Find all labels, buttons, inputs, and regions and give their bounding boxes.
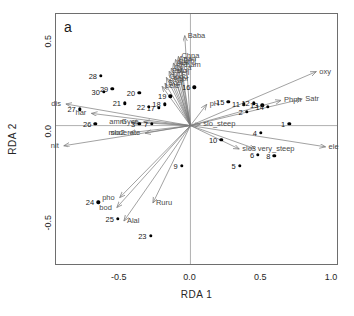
site-label: 1 bbox=[281, 119, 285, 128]
y-tick-label: -0.5 bbox=[43, 215, 53, 231]
biplot-arrow bbox=[117, 126, 191, 208]
site-label: 16 bbox=[182, 83, 190, 92]
site-label: 11 bbox=[232, 100, 240, 109]
site-label: 26 bbox=[83, 119, 91, 128]
panel-label: a bbox=[64, 19, 72, 35]
x-axis-title: RDA 1 bbox=[181, 289, 212, 300]
site-label: 28 bbox=[89, 71, 97, 80]
site-label: 25 bbox=[106, 215, 114, 224]
site-label: 20 bbox=[127, 89, 135, 98]
site-label: 19 bbox=[158, 92, 166, 101]
y-axis-title: RDA 2 bbox=[7, 123, 18, 154]
site-label: 6 bbox=[250, 150, 254, 159]
site-label: 5 bbox=[231, 161, 235, 170]
arrow-label: ele bbox=[329, 141, 339, 150]
site-label: 21 bbox=[113, 99, 121, 108]
site-label: 3 bbox=[131, 119, 135, 128]
y-tick-label: 0.0 bbox=[43, 125, 53, 138]
biplot-arrow bbox=[153, 126, 190, 203]
site-label: 18 bbox=[152, 100, 160, 109]
site-label: 24 bbox=[86, 198, 94, 207]
site-label: 8 bbox=[266, 152, 270, 161]
arrow-label: Lele bbox=[165, 81, 179, 90]
arrow-label: Gyce bbox=[121, 116, 139, 125]
arrow-label: bod bbox=[99, 202, 112, 211]
site-label: 30 bbox=[91, 87, 99, 96]
site-label: 15 bbox=[216, 97, 224, 106]
site-label: 23 bbox=[138, 231, 146, 240]
arrow-label: slo_steep bbox=[203, 119, 235, 128]
arrow-label: dis bbox=[51, 99, 61, 108]
site-label: 12 bbox=[241, 99, 249, 108]
site-label: 4 bbox=[253, 128, 257, 137]
y-tick-label: 0.5 bbox=[43, 35, 53, 48]
arrow-label: very_steep bbox=[258, 143, 295, 152]
arrow-label: nit bbox=[51, 140, 59, 149]
x-tick-label: 0.5 bbox=[254, 272, 267, 282]
arrow-label: Baba bbox=[188, 30, 206, 39]
x-tick-label: -0.5 bbox=[111, 272, 127, 282]
arrow-label: Phph bbox=[284, 95, 302, 104]
biplot-arrow bbox=[124, 126, 191, 221]
arrow-label: oxy bbox=[319, 66, 331, 75]
arrow-label: moderate bbox=[108, 128, 140, 137]
site-label: 22 bbox=[137, 102, 145, 111]
site-label: 7 bbox=[144, 119, 148, 128]
biplot-arrow bbox=[91, 113, 190, 125]
site-label: 9 bbox=[173, 161, 177, 170]
x-tick-label: 0.0 bbox=[183, 272, 196, 282]
site-label: 27 bbox=[67, 105, 75, 114]
arrow-label: Satr bbox=[305, 93, 319, 102]
arrow-label: Ruru bbox=[156, 198, 172, 207]
site-label: 14 bbox=[256, 102, 264, 111]
site-label: 10 bbox=[209, 135, 217, 144]
rda-biplot-figure: a RDA 1 RDA 2 oxyeleSatrPhphpHslo_steepv… bbox=[0, 0, 354, 316]
x-tick-label: 1.0 bbox=[325, 272, 338, 282]
arrow-label: Alal bbox=[127, 216, 140, 225]
arrow-label: pho bbox=[102, 192, 115, 201]
